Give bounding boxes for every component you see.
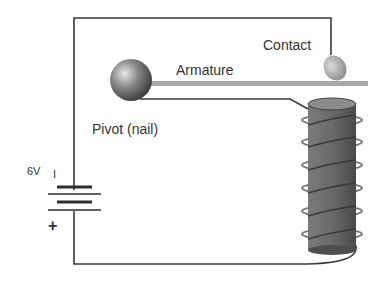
contact-label: Contact — [263, 38, 311, 52]
pivot-label: Pivot (nail) — [92, 122, 158, 136]
contact-point — [319, 51, 351, 85]
armature-label: Armature — [176, 63, 234, 77]
voltage-label: 6V — [27, 166, 40, 177]
relay-diagram — [0, 0, 389, 284]
battery-plus-label: + — [48, 218, 57, 234]
electromagnet-coil — [302, 98, 362, 255]
battery — [48, 187, 101, 210]
pivot-ball — [110, 59, 152, 101]
armature-bar — [150, 81, 368, 86]
battery-minus-mark: I — [53, 169, 56, 180]
